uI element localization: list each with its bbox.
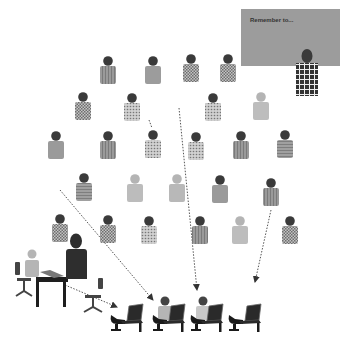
head: [285, 216, 295, 226]
body: [220, 64, 236, 82]
body: [282, 226, 298, 244]
body: [127, 184, 143, 202]
audience-member: [205, 93, 221, 121]
laptop-screen: [245, 304, 261, 321]
body: [188, 142, 204, 160]
body: [75, 102, 91, 120]
chair-foot: [191, 329, 201, 331]
head: [235, 216, 245, 226]
body: [277, 140, 293, 158]
head: [55, 214, 65, 224]
whiteboard: Remember to...: [241, 9, 340, 96]
head: [256, 92, 266, 102]
body: [233, 141, 249, 159]
body: [253, 102, 269, 120]
head: [127, 93, 137, 103]
desk-leg: [139, 323, 142, 332]
audience-member: [127, 174, 143, 202]
audience-member: [233, 131, 249, 159]
body: [76, 183, 92, 201]
audience-member: [76, 173, 92, 201]
body: [263, 188, 279, 206]
head: [161, 297, 170, 306]
head: [191, 132, 201, 142]
body: [100, 225, 116, 243]
head: [195, 216, 205, 226]
front-seat: [229, 304, 261, 332]
teacher-body: [66, 249, 87, 279]
body: [183, 64, 199, 82]
desk-leg: [257, 323, 260, 332]
teacher: [66, 234, 87, 280]
body: [124, 103, 140, 121]
audience-member: [48, 131, 64, 159]
audience-member: [100, 131, 116, 159]
teacher-desk-area: [15, 234, 103, 313]
body: [232, 226, 248, 244]
audience-member: [145, 56, 161, 84]
audience-member: [212, 175, 228, 203]
desk-leg: [219, 323, 222, 332]
presenter-body: [296, 63, 318, 96]
body: [48, 141, 64, 159]
head: [144, 216, 154, 226]
presenter-head: [302, 49, 313, 63]
body: [141, 226, 157, 244]
head: [103, 56, 113, 66]
audience-member: [169, 174, 185, 202]
head: [103, 131, 113, 141]
audience-member: [253, 92, 269, 120]
body: [212, 185, 228, 203]
chair-foot: [111, 329, 121, 331]
head: [215, 175, 225, 185]
body: [145, 66, 161, 84]
body: [145, 140, 161, 158]
head: [186, 54, 196, 64]
seated-person: [25, 250, 39, 278]
head: [223, 54, 233, 64]
workshop-diagram: Remember to...: [0, 0, 349, 343]
audience-member: [75, 92, 91, 120]
head: [78, 92, 88, 102]
head: [148, 130, 158, 140]
head: [236, 131, 246, 141]
audience-member: [141, 216, 157, 244]
head: [79, 173, 89, 183]
audience: [48, 54, 298, 244]
audience-member: [183, 54, 199, 82]
head: [199, 297, 208, 306]
body: [192, 226, 208, 244]
front-seat: [153, 297, 185, 333]
body: [100, 66, 116, 84]
head: [172, 174, 182, 184]
audience-member: [188, 132, 204, 160]
head: [280, 130, 290, 140]
head: [148, 56, 158, 66]
laptop-screen: [127, 304, 143, 321]
head: [103, 215, 113, 225]
body: [169, 184, 185, 202]
audience-member: [145, 130, 161, 158]
audience-member: [282, 216, 298, 244]
audience-member: [192, 216, 208, 244]
laptop-screen: [169, 304, 185, 321]
chair-right: [84, 278, 103, 312]
desk: [36, 270, 68, 307]
head: [266, 178, 276, 188]
audience-member: [52, 214, 68, 242]
head: [130, 174, 140, 184]
front-seat: [191, 297, 223, 333]
audience-member: [232, 216, 248, 244]
chair-foot: [229, 329, 239, 331]
body: [100, 141, 116, 159]
head: [51, 131, 61, 141]
front-seats: [111, 297, 261, 333]
arrow: [255, 210, 271, 282]
laptop-screen: [207, 304, 223, 321]
audience-member: [100, 56, 116, 84]
body: [52, 224, 68, 242]
board-text: Remember to...: [250, 17, 294, 23]
head: [208, 93, 218, 103]
chair-foot: [153, 329, 163, 331]
audience-member: [124, 93, 140, 121]
